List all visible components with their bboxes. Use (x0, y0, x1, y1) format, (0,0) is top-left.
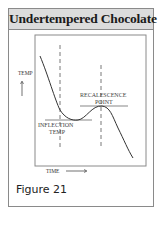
inflection-label-1: INFLECTION (38, 122, 74, 128)
chart-box (35, 35, 146, 166)
recalescence-label-1: RECALESCENCE (80, 92, 127, 98)
x-axis-label: TIME (46, 168, 60, 174)
recalescence-label-2: POINT (95, 99, 113, 105)
temperature-curve (40, 56, 133, 158)
inflection-label-2: TEMP (49, 129, 66, 135)
y-axis-label: TEMP (18, 70, 33, 76)
figure-caption: Figure 21 (16, 183, 67, 196)
